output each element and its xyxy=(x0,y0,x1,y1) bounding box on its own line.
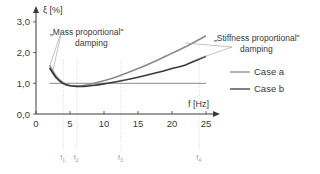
damping-chart: f1f2f3f4 05101520250,01,02,03,0 ξ [%] f … xyxy=(0,0,320,174)
y-tick-label: 2,0 xyxy=(17,47,30,58)
frequency-markers: f1f2f3f4 xyxy=(60,60,201,163)
x-tick-label: 20 xyxy=(167,118,178,129)
y-tick-label: 0,0 xyxy=(17,109,30,120)
series-line-case-b xyxy=(50,56,206,86)
series-line-case-a xyxy=(50,36,206,86)
x-tick-label: 15 xyxy=(133,118,144,129)
x-tick-label: 10 xyxy=(99,118,110,129)
x-axis-arrow-icon xyxy=(213,111,220,117)
marker-label-f2: f2 xyxy=(74,154,79,163)
y-axis-title: ξ [%] xyxy=(43,5,63,15)
x-tick-label: 5 xyxy=(67,118,72,129)
legend-label-case-b: Case b xyxy=(254,83,284,94)
annotation-stiffness-line1: „Stiffness proportional" xyxy=(214,33,300,43)
y-tick-label: 1,0 xyxy=(17,78,30,89)
marker-label-f1: f1 xyxy=(60,154,65,163)
annotation-mass-line2: damping xyxy=(75,38,108,48)
y-tick-label: 3,0 xyxy=(17,16,30,27)
annotation-stiffness-line2: damping xyxy=(240,44,273,54)
annotation-mass: „Mass proportional" damping xyxy=(50,27,123,70)
marker-label-f4: f4 xyxy=(196,154,201,163)
legend: Case a Case b xyxy=(230,66,285,94)
annotation-stiffness-pointer-a xyxy=(185,43,232,47)
legend-label-case-a: Case a xyxy=(254,66,285,77)
series-group xyxy=(50,36,206,87)
annotation-stiffness-pointer-b xyxy=(192,47,232,61)
x-tick-label: 0 xyxy=(33,118,38,129)
x-axis-title: f [Hz] xyxy=(188,99,209,109)
x-tick-label: 25 xyxy=(201,118,212,129)
y-axis-arrow-icon xyxy=(33,6,39,13)
marker-label-f3: f3 xyxy=(118,154,123,163)
